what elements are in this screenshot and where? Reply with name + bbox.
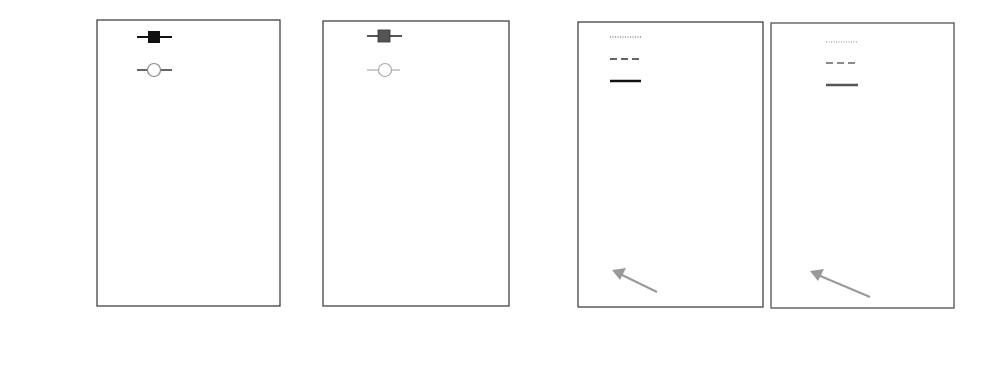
legend <box>826 42 858 85</box>
panel-b <box>0 0 509 306</box>
panel-a <box>0 0 280 306</box>
filled-square-marker-icon <box>378 30 390 42</box>
arrow-icon <box>810 269 870 297</box>
figure <box>0 0 994 387</box>
open-circle-marker-icon <box>379 64 392 77</box>
open-circle-marker-icon <box>148 64 161 77</box>
arrow-icon <box>612 268 657 292</box>
plot-frame <box>578 22 763 307</box>
plot-frame <box>771 23 954 308</box>
legend <box>0 0 402 77</box>
plot-frame <box>97 20 280 306</box>
legend <box>610 37 641 81</box>
plot-frame <box>323 21 509 306</box>
legend <box>0 0 172 77</box>
panel-d <box>771 23 954 308</box>
panel-c <box>542 22 763 307</box>
filled-square-marker-icon <box>148 31 160 43</box>
